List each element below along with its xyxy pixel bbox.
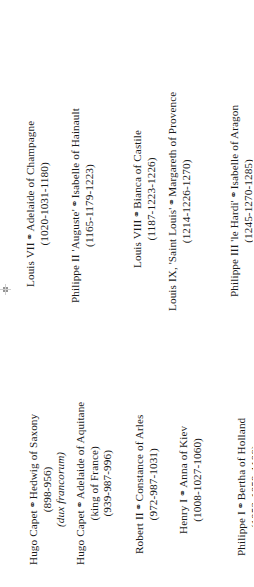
marriage-icon: ⚭ xyxy=(177,488,188,499)
entry-note: (dux francorum) xyxy=(54,414,68,565)
marriage-icon: ⚭ xyxy=(235,500,246,511)
entry-name-line: Hugo Capet⚭Adelaide of Aquitane xyxy=(73,402,88,565)
entry-name-line: Philippe I⚭Bertha of Holland xyxy=(234,418,249,556)
entry-philippe-ii: Philippe II 'Auguste'⚭Isabelle of Hainau… xyxy=(68,108,96,303)
entry-note: (king of France) xyxy=(88,402,102,565)
marriage-icon: ⚭ xyxy=(228,189,239,200)
entry-hugo-capet-hedwig: Hugo Capet⚭Hedwig of Saxony (898-956) (d… xyxy=(26,414,68,565)
marriage-icon: ⚭ xyxy=(166,197,177,208)
spouse-name: Adelaide of Champagne xyxy=(24,121,36,232)
entry-henry-i: Henry I⚭Anna of Kiev (1008-1027-1060) xyxy=(176,426,204,534)
spouse-name: Bianca of Castile xyxy=(131,130,143,209)
spouse-name: Margareth of Provence xyxy=(166,92,178,197)
entry-dates: (1020-1031-1180) xyxy=(38,121,52,287)
entry-name-line: Robert II⚭Constance of Arles xyxy=(132,414,147,554)
entry-dates: (1187-1223-1226) xyxy=(145,130,159,268)
spouse-name: Adelaide of Aquitane xyxy=(74,402,86,500)
entry-name-line: Philippe II 'Auguste'⚭Isabelle of Hainau… xyxy=(68,108,83,303)
entry-hugo-capet-adelaide: Hugo Capet⚭Adelaide of Aquitane (king of… xyxy=(73,402,115,565)
marriage-icon: ⚭ xyxy=(133,501,144,512)
entry-name-line: Hugo Capet⚭Hedwig of Saxony xyxy=(26,414,41,565)
entry-louis-vii: Louis VII⚭Adelaide of Champagne (1020-10… xyxy=(23,121,51,287)
person-name: Philippe II 'Auguste' xyxy=(69,209,81,303)
person-name: Philippe I xyxy=(235,511,247,556)
entry-dates: (972-987-1031) xyxy=(147,414,161,554)
entry-name-line: Louis VIII⚭Bianca of Castile xyxy=(130,130,145,268)
entry-dates: (1214-1226-1270) xyxy=(180,92,194,311)
entry-dates: (1008-1027-1060) xyxy=(191,426,205,534)
person-name: Louis IX, 'Saint Louis' xyxy=(166,208,178,311)
entry-name-line: Louis IX, 'Saint Louis'⚭Margareth of Pro… xyxy=(165,92,180,311)
spouse-name: Bertha of Holland xyxy=(235,418,247,500)
entry-dates: (939-987-996) xyxy=(101,402,115,565)
entry-robert-ii: Robert II⚭Constance of Arles (972-987-10… xyxy=(132,414,160,554)
entry-philippe-i: Philippe I⚭Bertha of Holland (1052-1059-… xyxy=(234,418,253,556)
entry-name-line: Philippe III 'le Hardi'⚭Isabelle of Arag… xyxy=(227,105,242,297)
entry-philippe-iii: Philippe III 'le Hardi'⚭Isabelle of Arag… xyxy=(227,105,253,297)
entry-dates: (898-956) xyxy=(41,414,55,565)
spouse-name: Constance of Arles xyxy=(133,414,145,501)
marriage-icon: ⚭ xyxy=(24,232,35,243)
spouse-name: Anna of Kiev xyxy=(177,426,189,488)
marriage-icon: ⚭ xyxy=(74,499,85,510)
entry-dates: (1165-1179-1223) xyxy=(83,108,97,303)
spouse-name: Hedwig of Saxony xyxy=(27,414,39,500)
person-name: Louis VII xyxy=(24,242,36,287)
entry-dates: (1245-1270-1285) xyxy=(242,105,254,297)
marriage-icon: ⚭ xyxy=(131,209,142,220)
entry-louis-ix: Louis IX, 'Saint Louis'⚭Margareth of Pro… xyxy=(165,92,193,311)
person-name: Hugo Capet xyxy=(74,510,86,565)
spouse-name: Isabelle of Aragon xyxy=(228,105,240,189)
person-name: Hugo Capet xyxy=(27,510,39,565)
entry-name-line: Henry I⚭Anna of Kiev xyxy=(176,426,191,534)
scan-artifact-speck xyxy=(3,287,8,292)
marriage-icon: ⚭ xyxy=(69,198,80,209)
spouse-name: Isabelle of Hainault xyxy=(69,108,81,198)
entry-dates: (1052-1059-1108) xyxy=(249,418,254,556)
entry-name-line: Louis VII⚭Adelaide of Champagne xyxy=(23,121,38,287)
entry-louis-viii: Louis VIII⚭Bianca of Castile (1187-1223-… xyxy=(130,130,158,268)
rotated-page-canvas: Hugo Capet⚭Hedwig of Saxony (898-956) (d… xyxy=(0,0,253,587)
person-name: Louis VIII xyxy=(131,220,143,268)
person-name: Philippe III 'le Hardi' xyxy=(228,200,240,297)
person-name: Henry I xyxy=(177,499,189,534)
marriage-icon: ⚭ xyxy=(27,499,38,510)
genealogy-page: Hugo Capet⚭Hedwig of Saxony (898-956) (d… xyxy=(0,0,253,587)
person-name: Robert II xyxy=(133,512,145,554)
